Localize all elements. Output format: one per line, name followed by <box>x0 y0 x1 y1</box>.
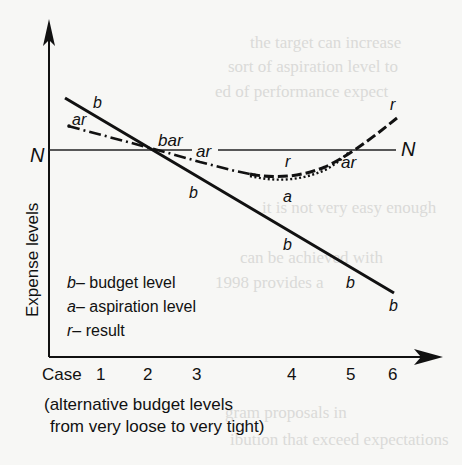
expense-levels-diagram: the target can increase sort of aspirati… <box>0 0 462 465</box>
label-bar: bar <box>158 131 184 150</box>
svg-text:the target can increase: the target can increase <box>250 33 401 52</box>
label-a-mid: a <box>283 188 292 205</box>
label-b-mid: b <box>189 184 198 201</box>
label-ar-left: ar <box>72 111 87 128</box>
svg-text:1998 provides a: 1998 provides a <box>215 273 324 292</box>
label-b-lower2: b <box>346 274 355 291</box>
norm-label-right: N <box>401 138 416 160</box>
x-axis-labels: Case 1 2 3 4 5 6 <box>42 365 397 384</box>
label-ar-mid: ar <box>196 142 212 161</box>
legend-item-budget: b– budget level <box>67 274 176 291</box>
x-tick-2: 2 <box>143 365 152 384</box>
x-tick-4: 4 <box>287 365 296 384</box>
x-tick-1: 1 <box>96 365 105 384</box>
x-tick-3: 3 <box>192 365 201 384</box>
svg-text:sort of aspiration level to: sort of aspiration level to <box>228 57 398 76</box>
svg-text:can be achieved with: can be achieved with <box>240 248 384 267</box>
x-tick-5: 5 <box>346 365 355 384</box>
x-caption-line1: (alternative budget levels <box>44 395 233 414</box>
y-axis-label: Expense levels <box>23 203 42 317</box>
legend: b– budget level a– aspiration level r– r… <box>67 274 196 339</box>
budget-line <box>65 98 394 293</box>
svg-text:ed of performance expect: ed of performance expect <box>215 82 388 101</box>
legend-item-aspiration: a– aspiration level <box>67 298 196 315</box>
norm-label-left: N <box>30 144 45 166</box>
x-tick-6: 6 <box>388 365 397 384</box>
x-caption-line2: from very loose to very tight) <box>50 417 264 436</box>
label-b-lower1: b <box>283 236 292 253</box>
label-r-right: r <box>390 96 396 113</box>
background-bleed-text: the target can increase sort of aspirati… <box>215 33 449 449</box>
result-curve <box>250 118 397 177</box>
label-b-top: b <box>93 94 102 111</box>
label-b-end: b <box>389 297 398 314</box>
x-axis-case-label: Case <box>42 365 82 384</box>
label-r-mid: r <box>285 153 291 170</box>
legend-item-result: r– result <box>67 322 125 339</box>
label-ar-right: ar <box>341 153 357 172</box>
